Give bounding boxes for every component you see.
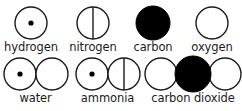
molecule-label-water: water [19,92,51,105]
atom-label-oxygen: oxygen [191,41,232,54]
molecule-glyph-ammonia [74,57,142,91]
molecule-row: water ammonia c [0,57,242,105]
atom-glyph-carbon [134,6,172,40]
molecule-entry-ammonia: ammonia [71,57,144,105]
atom-label-nitrogen: nitrogen [69,41,116,54]
molecule-entry-water: water [0,57,71,105]
molecule-label-ammonia: ammonia [81,92,134,105]
atom-key-row: hydrogen nitrogen carbon [0,6,242,54]
atom-entry-carbon: carbon [124,6,182,54]
atom-entry-hydrogen: hydrogen [0,6,62,54]
atom-glyph-oxygen [194,6,230,40]
atom-glyph-hydrogen [13,6,49,40]
water-molecule-icon [2,56,70,92]
oxygen-atom-icon [194,5,230,41]
carbon-atom-icon [134,4,172,42]
molecule-label-carbon-dioxide: carbon dioxide [151,92,235,105]
atom-entry-nitrogen: nitrogen [62,6,124,54]
molecule-entry-carbon-dioxide: carbon dioxide [144,57,242,105]
nitrogen-atom-icon [75,5,111,41]
molecule-glyph-carbon-dioxide [144,57,242,91]
atom-glyph-nitrogen [75,6,111,40]
atom-entry-oxygen: oxygen [182,6,242,54]
molecule-glyph-water [2,57,70,91]
atom-label-carbon: carbon [133,41,172,54]
carbon-dioxide-molecule-icon [144,55,242,93]
hydrogen-atom-icon [13,5,49,41]
atoms-and-molecules-diagram: hydrogen nitrogen carbon [0,0,242,111]
atom-label-hydrogen: hydrogen [4,41,58,54]
ammonia-molecule-icon [74,56,142,92]
